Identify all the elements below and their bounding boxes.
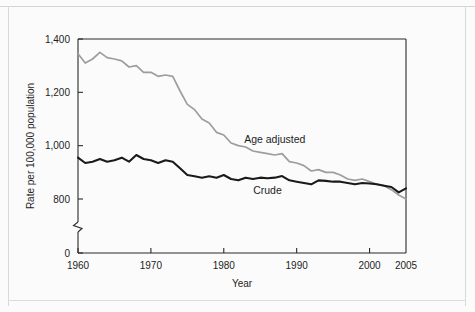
x-axis-ticks <box>78 248 370 253</box>
x-tick-label-1970: 1970 <box>140 260 163 271</box>
y-tick-label-1200: 1,200 <box>45 87 70 98</box>
y-tick-label-1000: 1,000 <box>45 140 70 151</box>
series-annotation-crude: Crude <box>253 184 282 196</box>
x-tick-label-2000: 2000 <box>358 260 381 271</box>
y-axis-tick-labels: 08001,0001,2001,400 <box>45 34 70 259</box>
y-axis-break-mark <box>74 222 83 232</box>
x-tick-label-1960: 1960 <box>67 260 90 271</box>
figure-frame: 08001,0001,2001,400 19601970198019902000… <box>0 0 475 312</box>
y-tick-label-800: 800 <box>53 194 70 205</box>
series-annotation-age-adjusted: Age adjusted <box>244 133 305 145</box>
line-chart: 08001,0001,2001,400 19601970198019902000… <box>0 0 475 312</box>
y-axis-ticks <box>78 39 83 253</box>
x-tick-label-1990: 1990 <box>286 260 309 271</box>
x-tick-label-1980: 1980 <box>213 260 236 271</box>
series-line-crude <box>78 155 406 192</box>
x-axis-title: Year <box>232 278 253 289</box>
y-axis-title: Rate per 100,000 population <box>25 83 36 209</box>
data-series-group <box>78 52 406 199</box>
series-line-age-adjusted <box>78 52 406 199</box>
y-tick-label-1400: 1,400 <box>45 34 70 45</box>
x-tick-label-2005: 2005 <box>395 260 418 271</box>
y-tick-label-0: 0 <box>64 248 70 259</box>
series-annotation-group: Age adjustedCrude <box>244 133 305 196</box>
x-axis-tick-labels: 196019701980199020002005 <box>67 260 418 271</box>
